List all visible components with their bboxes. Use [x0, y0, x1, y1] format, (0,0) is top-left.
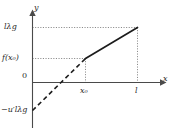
y-tick-label-fx0: f(x₀) [2, 54, 19, 62]
origin-label: 0 [22, 72, 27, 80]
y-axis-label: y [34, 4, 39, 12]
x-axis-label: x [163, 75, 168, 83]
y-tick-label-llambdag: lλg [4, 23, 17, 31]
x-tick-label-l: l [135, 87, 138, 95]
extrapolated-line-segment [33, 59, 86, 111]
actual-line-segment [86, 28, 138, 59]
figure-container: lλg f(x₀) −u′lλg 0 x₀ l y x [0, 0, 175, 132]
x-tick-label-x0: x₀ [80, 87, 88, 95]
y-tick-label-minus-u-prime-llambdag: −u′lλg [1, 106, 27, 114]
